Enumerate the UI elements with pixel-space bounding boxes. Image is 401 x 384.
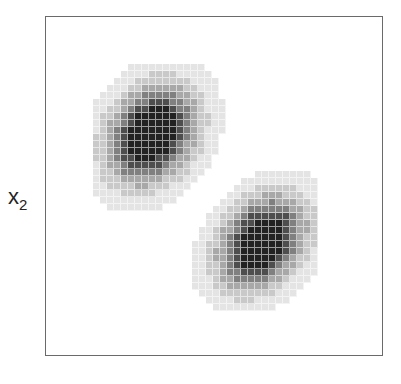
density-cell: [184, 99, 191, 106]
density-cell: [192, 269, 199, 276]
density-cell: [255, 185, 262, 192]
density-cell: [198, 141, 205, 148]
density-cell: [290, 241, 297, 248]
density-cell: [205, 99, 212, 106]
density-cell: [93, 183, 100, 190]
density-cell: [191, 71, 198, 78]
density-cell: [149, 78, 156, 85]
density-cell: [128, 106, 135, 113]
density-cell: [198, 120, 205, 127]
density-cell: [184, 134, 191, 141]
density-cell: [135, 106, 142, 113]
density-cell: [149, 162, 156, 169]
density-cell: [114, 162, 121, 169]
density-cell: [248, 185, 255, 192]
density-cell: [93, 162, 100, 169]
density-cell: [241, 304, 248, 311]
density-cell: [198, 127, 205, 134]
density-cell: [163, 99, 170, 106]
density-cell: [191, 148, 198, 155]
density-cell: [156, 204, 163, 211]
density-cell: [269, 206, 276, 213]
density-cell: [304, 171, 311, 178]
density-cell: [220, 227, 227, 234]
density-cell: [255, 241, 262, 248]
density-cell: [206, 227, 213, 234]
density-cell: [163, 127, 170, 134]
density-cell: [262, 178, 269, 185]
density-cell: [191, 162, 198, 169]
density-cell: [276, 290, 283, 297]
density-cell: [114, 127, 121, 134]
density-cell: [213, 206, 220, 213]
density-cell: [135, 155, 142, 162]
density-cell: [100, 155, 107, 162]
density-cell: [100, 190, 107, 197]
density-cell: [107, 169, 114, 176]
density-cell: [290, 283, 297, 290]
density-cell: [198, 106, 205, 113]
density-cell: [121, 162, 128, 169]
density-cell: [184, 120, 191, 127]
density-cell: [297, 255, 304, 262]
density-cell: [227, 227, 234, 234]
density-cell: [227, 283, 234, 290]
density-cell: [269, 178, 276, 185]
density-cell: [114, 197, 121, 204]
density-cell: [304, 255, 311, 262]
density-cell: [149, 197, 156, 204]
density-cell: [213, 255, 220, 262]
density-cell: [107, 106, 114, 113]
density-cell: [121, 92, 128, 99]
density-cell: [276, 255, 283, 262]
density-cell: [255, 171, 262, 178]
density-cell: [290, 255, 297, 262]
density-cell: [114, 134, 121, 141]
density-cell: [283, 171, 290, 178]
density-cell: [212, 127, 219, 134]
density-cell: [163, 106, 170, 113]
density-cell: [304, 199, 311, 206]
density-cell: [248, 262, 255, 269]
density-cell: [283, 255, 290, 262]
density-cell: [206, 262, 213, 269]
density-cell: [297, 248, 304, 255]
density-cell: [283, 241, 290, 248]
density-cell: [290, 290, 297, 297]
density-cell: [248, 192, 255, 199]
density-cell: [220, 234, 227, 241]
density-cell: [219, 113, 226, 120]
density-cell: [248, 199, 255, 206]
density-cell: [213, 248, 220, 255]
density-cell: [184, 64, 191, 71]
density-cell: [206, 297, 213, 304]
density-cell: [283, 227, 290, 234]
density-cell: [276, 185, 283, 192]
density-cell: [255, 269, 262, 276]
density-cell: [135, 120, 142, 127]
density-cell: [135, 113, 142, 120]
density-cell: [304, 241, 311, 248]
density-cell: [142, 134, 149, 141]
density-cell: [311, 199, 318, 206]
density-cell: [163, 183, 170, 190]
density-cell: [156, 169, 163, 176]
density-cell: [199, 227, 206, 234]
density-cell: [100, 127, 107, 134]
density-cell: [234, 234, 241, 241]
density-cell: [128, 162, 135, 169]
density-cell: [177, 106, 184, 113]
density-cell: [241, 262, 248, 269]
density-cell: [199, 248, 206, 255]
density-cell: [149, 120, 156, 127]
density-cell: [269, 269, 276, 276]
density-cell: [198, 113, 205, 120]
density-cell: [248, 297, 255, 304]
density-cell: [276, 213, 283, 220]
density-cell: [248, 213, 255, 220]
density-cell: [220, 276, 227, 283]
density-cell: [283, 220, 290, 227]
density-cell: [149, 113, 156, 120]
density-cell: [93, 106, 100, 113]
density-cell: [311, 227, 318, 234]
